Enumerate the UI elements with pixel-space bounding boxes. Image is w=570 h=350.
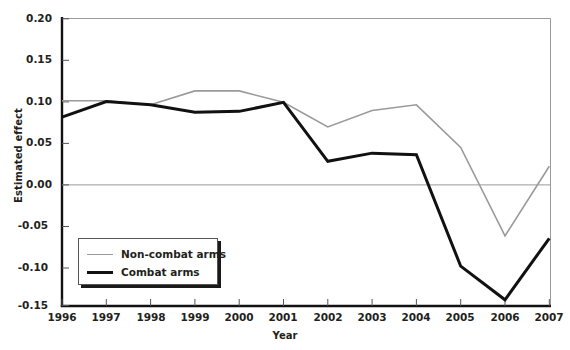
x-tick-label-1997: 1997 (84, 311, 128, 323)
x-tick-label-1998: 1998 (129, 311, 173, 323)
legend-line-swatch-icon (87, 271, 113, 274)
x-tick-label-2000: 2000 (217, 311, 261, 323)
y-tick-label-0: 0.20 (12, 12, 52, 24)
chart-legend: Non-combat arms Combat arms (78, 238, 218, 285)
x-tick-label-2006: 2006 (483, 311, 527, 323)
x-axis-title: Year (0, 330, 570, 341)
legend-entry-combat-arms: Combat arms (87, 263, 200, 281)
x-tick-label-2003: 2003 (350, 311, 394, 323)
y-tick-label-7: -0.15 (8, 299, 48, 311)
line-chart-figure: 0.20 0.15 0.10 0.05 0.00 -0.05 -0.10 -0.… (0, 0, 570, 350)
x-tick-label-2007: 2007 (527, 311, 570, 323)
series-line-non-combat-arms (62, 91, 549, 236)
x-tick-label-2002: 2002 (306, 311, 350, 323)
x-tick-label-2001: 2001 (261, 311, 305, 323)
x-tick-label-2005: 2005 (438, 311, 482, 323)
legend-label-non-combat-arms: Non-combat arms (121, 248, 226, 260)
legend-label-combat-arms: Combat arms (121, 266, 200, 278)
x-tick-label-2004: 2004 (394, 311, 438, 323)
y-axis-title: Estimated effect (13, 101, 24, 211)
x-tick-label-1996: 1996 (40, 311, 84, 323)
y-tick-label-5: -0.05 (8, 219, 48, 231)
x-tick-label-1999: 1999 (173, 311, 217, 323)
y-tick-label-6: -0.10 (8, 261, 48, 273)
legend-line-swatch-icon (87, 254, 113, 255)
y-tick-label-1: 0.15 (12, 53, 52, 65)
legend-entry-non-combat-arms: Non-combat arms (87, 245, 226, 263)
plot-canvas (0, 0, 570, 350)
